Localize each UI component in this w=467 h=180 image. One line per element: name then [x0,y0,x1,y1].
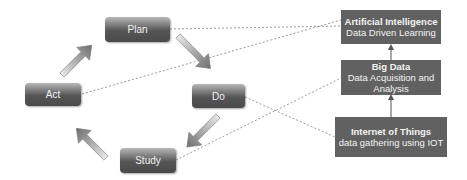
arrow-act-to-plan [56,39,98,81]
big-data-subtitle-2: Analysis [373,83,408,94]
arrow-plan-to-do [172,30,217,75]
big-data-subtitle-1: Data Acquisition and [348,72,435,83]
big-data-box: Big Data Data Acquisition and Analysis [341,60,441,95]
study-box: Study [120,148,176,173]
do-box: Do [192,84,245,108]
do-label: Do [212,91,225,102]
arrow-study-to-act [70,122,112,164]
act-box: Act [25,83,81,106]
iot-subtitle: data gathering using IOT [339,137,444,148]
study-label: Study [135,155,161,166]
iot-box: Internet of Things data gathering using … [335,117,447,157]
act-label: Act [46,89,60,100]
big-data-title: Big Data [372,61,411,72]
ai-title: Artificial Intelligence [345,16,438,27]
plan-label: Plan [127,24,147,35]
iot-title: Internet of Things [351,126,431,137]
ai-box: Artificial Intelligence Data Driven Lear… [341,10,441,44]
ai-subtitle: Data Driven Learning [346,27,436,38]
plan-box: Plan [105,17,170,42]
